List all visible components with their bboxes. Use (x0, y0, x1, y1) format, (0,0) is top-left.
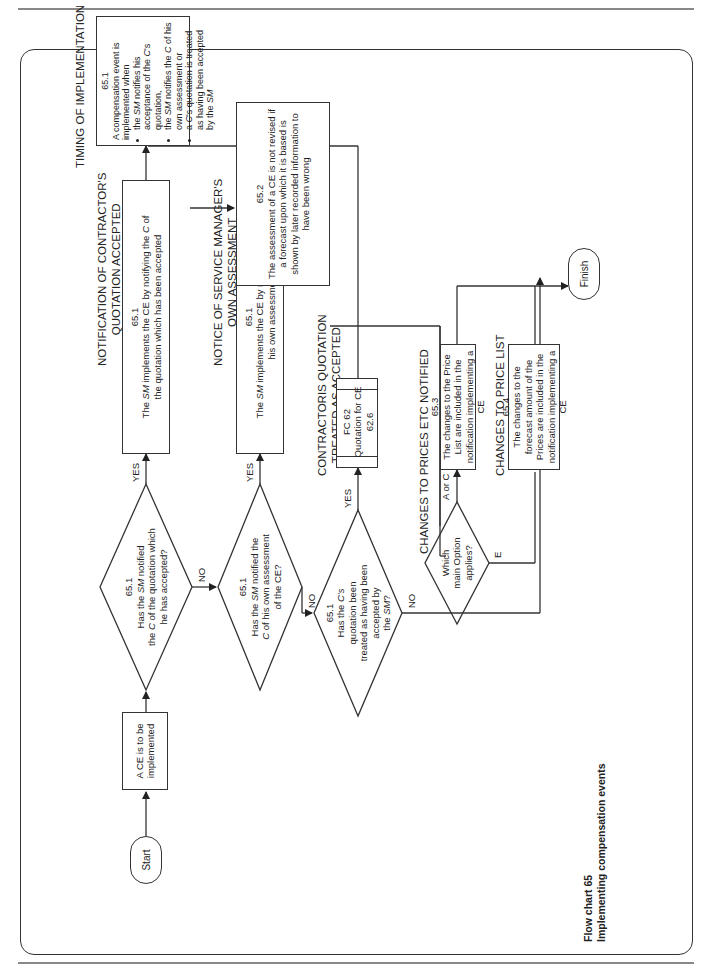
decision-line: treated as having been (358, 565, 370, 662)
no-label-d1: NO (196, 568, 207, 582)
box-ref: 65.1 (100, 22, 111, 140)
heading-line: NOTIFICATION OF CONTRACTOR'S (96, 173, 110, 366)
box-timing-of-implementation: 65.1 A compensation event is implemented… (96, 16, 190, 146)
heading-line: CONTRACTORIS QUOTATION (316, 314, 330, 476)
decision-line: Has the C's (335, 589, 347, 638)
box-price-list-changes: 65.3 The changes to the Price List are i… (440, 344, 476, 470)
heading-line: QUOTATION ACCEPTED (110, 173, 124, 366)
start-label: Start (141, 849, 152, 870)
flowchart-canvas: Start Finish A CE is to be implemented 6… (0, 0, 717, 976)
heading-line: NOTICE OF SERVICE MANAGER'S (212, 179, 226, 366)
no-label-d2: NO (306, 594, 317, 608)
caption-subtitle: Implementing compensation events (595, 763, 608, 942)
box-ref: 65.1 (129, 186, 141, 448)
box-text: The SM implements the CE by notifying th… (140, 216, 163, 419)
decision-line: the SM? (381, 595, 393, 630)
box-ref: 65.4 (500, 350, 512, 464)
decision-line: Has the SM notified the (249, 538, 261, 637)
start-terminal: Start (130, 836, 162, 884)
yes-label-d1: YES (130, 463, 141, 482)
decision-main-option: Which main Option applies? (436, 528, 478, 598)
box-ref: 65.2 (254, 108, 266, 280)
box-assessment-not-revised: 65.2 The assessment of a CE is not revis… (236, 102, 330, 286)
decision-ref: 65.1 (324, 604, 336, 623)
box-forecast-prices-changes: 65.4 The changes to the forecast amount … (508, 344, 560, 470)
heading-timing: TIMING OF IMPLEMENTATION (74, 5, 88, 168)
fc62-clause: 62.6 (364, 413, 376, 432)
decision-ref: 65.1 (123, 578, 135, 597)
timing-bullet: the SM notifies his acceptance of the C'… (132, 22, 164, 130)
decision-line: applies? (463, 545, 475, 580)
fc62-title: Quotation for CE (352, 387, 364, 458)
box-text: The assessment of a CE is not revised if… (266, 108, 312, 280)
finish-terminal: Finish (568, 248, 600, 300)
fc62-ref: FC 62 (341, 409, 353, 435)
caption-title: Flow chart 65 (582, 763, 595, 942)
decision-line: the C of the quotation which (146, 528, 158, 646)
yes-label-d2: YES (244, 463, 255, 482)
decision-line: of the CE? (272, 565, 284, 610)
decision-line: quotation been (347, 582, 359, 645)
box-ref: 65.3 (429, 350, 441, 464)
timing-bullets: the SM notifies his acceptance of the C'… (132, 22, 216, 140)
decision-line: he has accepted? (158, 550, 170, 625)
decision-line: C of his own assessment (260, 534, 272, 640)
decision-sm-notified-assessment: 65.1 Has the SM notified the C of his ow… (230, 522, 290, 652)
decision-quotation-treated-accepted: 65.1 Has the C's quotation been treated … (320, 550, 396, 676)
box-text: The changes to the forecast amount of th… (511, 350, 569, 464)
process-ce-to-be-implemented: A CE is to be implemented (122, 712, 168, 790)
decision-sm-notified-quotation: 65.1 Has the SM notified the C of the qu… (112, 518, 180, 656)
decision-ref: 65.1 (237, 578, 249, 597)
timing-bullet: the SM notifies the C of his own assessm… (163, 22, 184, 130)
timing-bullet: a C's quotation is treated as having bee… (184, 22, 216, 130)
box-quotation-accepted: 65.1 The SM implements the CE by notifyi… (122, 180, 170, 454)
box-text: The changes to the Price List are includ… (441, 350, 487, 464)
figure-caption: Flow chart 65 Implementing compensation … (582, 763, 607, 942)
process-text: A CE is to be implemented (134, 718, 157, 784)
branch-label-e: E (492, 552, 503, 558)
box-intro: A compensation event is implemented when (111, 22, 132, 140)
fc62-text: FC 62 Quotation for CE 62.6 (337, 377, 379, 467)
decision-line: Has the SM notified (135, 546, 147, 629)
decision-line: main Option (451, 537, 463, 588)
heading-contractor-quotation: NOTIFICATION OF CONTRACTOR'S QUOTATION A… (96, 173, 123, 366)
connector-arrow-option (0, 0, 717, 976)
decision-line: Which (440, 550, 452, 576)
decision-line: accepted by (370, 587, 382, 638)
predefined-process-fc62: FC 62 Quotation for CE 62.6 (336, 378, 378, 468)
heading-sm-assessment: NOTICE OF SERVICE MANAGER'S OWN ASSESSME… (212, 179, 239, 366)
yes-label-d3: YES (342, 489, 353, 508)
branch-label-a-or-c: A or C (440, 474, 451, 500)
no-label-d3: NO (406, 594, 417, 608)
finish-label: Finish (579, 261, 590, 288)
